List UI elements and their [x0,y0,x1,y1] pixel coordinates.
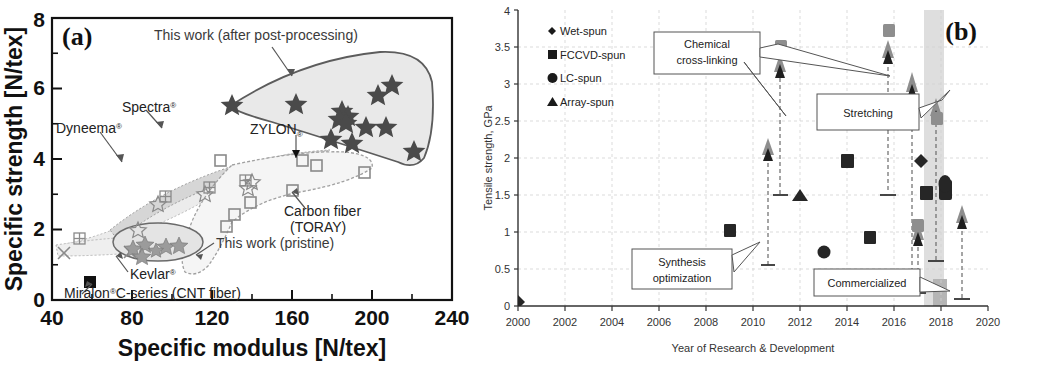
b-y-tick-15: 1.5 [495,189,510,201]
legend-circle-icon [548,73,558,83]
x-tick-120: 120 [194,306,229,329]
legend-label-lc-spun: LC-spun [560,72,602,84]
legend-label-fccvd-spun: FCCVD-spun [560,49,625,61]
b-y-tick-1: 1 [504,226,510,238]
callout-synth-line1: Synthesis [658,256,706,268]
panel-b-y-ticklabels: 0 0.5 1 1.5 2 2.5 3 3.5 4 [495,5,510,312]
b-y-tick-3: 3 [504,78,510,90]
panel-a-svg: 0 2 4 6 8 40 80 [0,0,480,366]
legend-triangle-icon [547,97,558,106]
panel-a-y-ticklabels: 0 2 4 6 8 [33,8,45,311]
b-x-tick-2016: 2016 [882,316,906,328]
marker-fccvd-2017 [920,186,933,200]
panel-a-xlabel: Specific modulus [N/tex] [118,335,386,361]
b-x-tick-2006: 2006 [647,316,671,328]
panel-a-x-ticklabels: 40 80 120 160 200 240 [40,306,469,329]
panel-a: 0 2 4 6 8 40 80 [0,0,480,366]
b-x-tick-2000: 2000 [506,316,530,328]
b-y-tick-35: 3.5 [495,41,510,53]
b-y-tick-25: 2.5 [495,115,510,127]
ann-carbon-fiber-l2: (TORAY) [290,219,346,235]
legend-label-array-spun: Array-spun [560,96,614,108]
ann-kevlar: Kevlar® [130,266,176,282]
b-x-tick-2008: 2008 [694,316,718,328]
ann-carbon-fiber-l1: Carbon fiber [284,203,361,219]
panel-b-callouts: Chemical cross-linking Stretching Synthe… [632,32,950,296]
y-tick-8: 8 [33,8,45,31]
y-tick-6: 6 [33,76,45,99]
legend-label-wet-spun: Wet-spun [560,25,607,37]
b-y-tick-4: 4 [504,5,510,17]
panel-a-label: (a) [62,22,92,51]
ann-miralon: Miralon®C-series (CNT fiber) [64,285,241,301]
marker-lc-2013 [818,246,831,259]
x-tick-240: 240 [434,306,469,329]
b-x-tick-2004: 2004 [600,316,624,328]
marker-fccvd-2014 [841,154,854,168]
marker-lc-2018 [939,175,952,193]
b-x-tick-2012: 2012 [788,316,812,328]
b-x-tick-2018: 2018 [929,316,953,328]
legend-square-icon [548,50,557,59]
b-y-tick-2: 2 [504,152,510,164]
b-y-tick-05: 0.5 [495,263,510,275]
ann-spectra: Spectra® [122,99,176,115]
panel-b-ylabel: Tensile strength, GPa [482,105,494,211]
b-x-tick-2014: 2014 [835,316,859,328]
panel-b-x-ticks [518,306,988,311]
legend-diamond-icon [548,27,556,35]
callout-synth-line2: optimization [653,272,712,284]
panel-b: 0 0.5 1 1.5 2 2.5 3 3.5 4 [480,0,1043,366]
panel-b-legend: Wet-spun FCCVD-spun LC-spun Array-spun [547,25,625,108]
callout-commercialized-line1: Commercialized [828,277,907,289]
b-x-tick-2020: 2020 [976,316,1000,328]
b-y-tick-0: 0 [504,300,510,312]
y-tick-4: 4 [33,147,45,170]
panel-b-xlabel: Year of Research & Development [672,342,835,354]
callout-synthesis-optimization: Synthesis optimization [632,242,760,289]
x-tick-40: 40 [40,306,63,329]
b-x-tick-2002: 2002 [553,316,577,328]
ann-dyneema: Dyneema® [56,120,122,136]
callout-stretching-line1: Stretching [843,107,893,119]
panel-a-ylabel: Specific strength [N/tex] [1,27,27,292]
panel-b-svg: 0 0.5 1 1.5 2 2.5 3 3.5 4 [480,0,1043,366]
panel-b-label: (b) [945,17,977,46]
y-tick-2: 2 [33,217,45,240]
callout-chem-line2: cross-linking [676,54,737,66]
ann-this-work-pristine: This work (pristine) [216,235,334,251]
ann-zylon: ZYLON® [250,121,303,139]
callout-chem-line1: Chemical [684,38,730,50]
figure-container: 0 2 4 6 8 40 80 [0,0,1043,366]
b-x-tick-2010: 2010 [741,316,765,328]
marker-fccvd-2015 [864,231,876,244]
x-tick-200: 200 [354,306,389,329]
ann-this-work-post: This work (after post-processing) [154,27,358,43]
panel-b-x-ticklabels: 2000 2002 2004 2006 2008 2010 2012 2014 … [506,316,1000,328]
x-tick-80: 80 [120,306,143,329]
marker-fccvd-2009 [724,224,736,237]
x-tick-160: 160 [274,306,309,329]
